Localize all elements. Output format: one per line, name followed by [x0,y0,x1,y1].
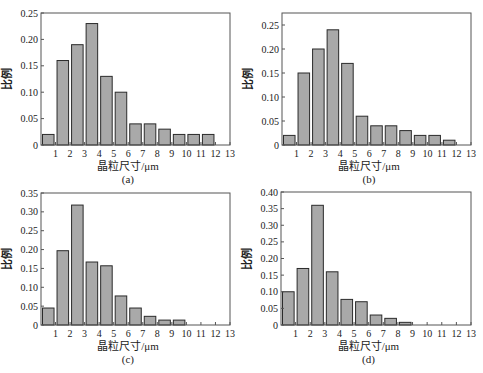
x-tick-label: 11 [196,328,206,339]
x-tick-label: 12 [451,328,461,339]
x-axis-label: 晶粒尺寸/μm [97,159,159,172]
x-tick-label: 9 [169,328,174,339]
y-tick-label: 0.20 [21,244,39,255]
bar-series [283,205,412,325]
x-tick-label: 6 [126,148,131,159]
bar-series [284,30,455,145]
bar [327,30,339,145]
x-tick-label: 13 [225,328,235,339]
bar [115,296,127,325]
bar [385,126,397,145]
y-axis-label: 比例 [241,68,255,90]
x-tick-label: 7 [140,328,145,339]
bar [443,140,455,145]
y-axis-label: 比例 [0,68,14,90]
y-tick-label: 0.35 [21,188,39,199]
y-tick-label: 0.15 [262,68,280,79]
bar [298,73,310,145]
y-tick-label: 0.25 [262,20,280,31]
y-tick-label: 0.05 [21,301,39,312]
bar-series [43,24,214,145]
x-axis-label: 晶粒尺寸/μm [97,339,159,352]
x-tick-label: 9 [410,148,415,159]
x-tick-label: 10 [181,148,191,159]
bar [43,308,55,325]
y-tick-label: 0.25 [21,225,39,236]
x-tick-label: 12 [451,148,461,159]
panel-label: (c) [122,353,135,366]
y-axis-label: 比例 [0,248,14,270]
bar [43,134,55,145]
bar [400,131,412,145]
y-tick-label: 0.05 [262,116,280,127]
x-tick-label: 3 [82,148,87,159]
x-tick-label: 10 [181,328,191,339]
x-tick-label: 1 [53,328,58,339]
x-tick-label: 13 [225,148,235,159]
chart-panel-b: 00.050.100.150.200.2512345678910111213晶粒… [241,13,476,186]
x-tick-label: 5 [111,328,116,339]
x-tick-label: 1 [293,328,298,339]
bar [371,126,383,145]
x-tick-label: 2 [309,148,314,159]
x-tick-label: 8 [155,148,160,159]
x-tick-label: 1 [294,148,299,159]
panel-label: (d) [362,353,375,366]
bar [188,134,200,145]
y-tick-label: 0.25 [261,236,279,247]
y-tick-label: 0.05 [261,303,279,314]
y-tick-label: 0.05 [21,113,39,124]
x-tick-label: 3 [322,328,327,339]
y-tick-label: 0 [274,140,279,151]
x-tick-label: 8 [396,148,401,159]
bar [313,49,325,145]
y-axis-label: 比例 [240,248,254,270]
y-tick-label: 0.10 [261,286,279,297]
bar [173,134,185,145]
x-tick-label: 12 [210,328,220,339]
bar [356,116,368,145]
x-axis-label: 晶粒尺寸/μm [338,339,400,352]
y-tick-label: 0.30 [21,206,39,217]
x-tick-label: 7 [381,328,386,339]
x-tick-label: 8 [155,328,160,339]
bar-series [43,205,185,325]
y-tick-label: 0 [33,320,38,331]
bar [57,251,69,325]
bar [144,316,156,325]
figure-canvas: 00.050.100.150.200.2512345678910111213晶粒… [0,0,483,373]
bar [341,299,353,325]
bar [414,135,426,145]
bar [342,63,354,145]
bar [385,318,397,325]
x-tick-label: 11 [196,148,206,159]
bar [86,262,98,325]
bar [173,320,185,325]
bar [312,205,324,325]
x-tick-label: 13 [466,328,476,339]
x-tick-label: 9 [410,328,415,339]
bar [72,45,84,145]
bar [202,134,214,145]
y-tick-label: 0.20 [262,44,280,55]
y-tick-label: 0.15 [21,60,39,71]
x-tick-label: 2 [68,328,73,339]
y-tick-label: 0 [273,320,278,331]
y-tick-label: 0.15 [261,270,279,281]
y-axis-ticks: 00.050.100.150.200.25 [21,8,45,151]
chart-panel-a: 00.050.100.150.200.2512345678910111213晶粒… [0,8,235,187]
chart-panel-d: 00.050.100.150.200.250.300.350.401234567… [240,187,476,367]
x-tick-label: 3 [82,328,87,339]
x-tick-label: 7 [381,148,386,159]
bar [297,268,309,325]
bar [130,308,142,325]
bar [356,302,368,325]
y-tick-label: 0.15 [21,263,39,274]
bar [159,320,171,325]
x-tick-label: 12 [210,148,220,159]
y-tick-label: 0.10 [262,92,280,103]
bar [283,292,295,325]
bar [86,24,98,145]
bar [370,315,382,325]
x-tick-label: 6 [367,148,372,159]
